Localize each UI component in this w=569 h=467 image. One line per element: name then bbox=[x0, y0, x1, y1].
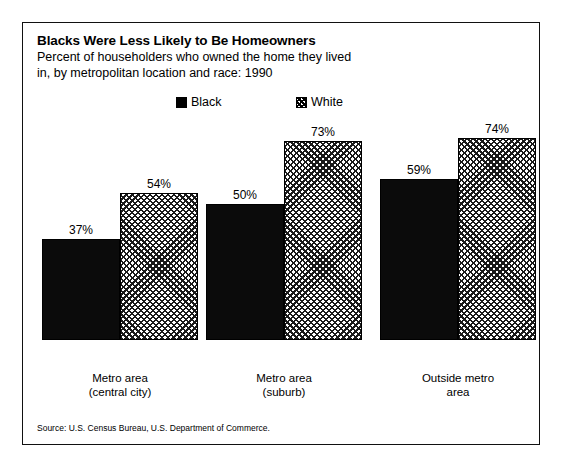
category-label-2: Metro area(suburb) bbox=[206, 371, 362, 399]
category-label-1-line-1: Metro area bbox=[42, 371, 198, 385]
category-label-1: Metro area(central city) bbox=[42, 371, 198, 399]
bar-white-3 bbox=[458, 138, 536, 340]
source-note: Source: U.S. Census Bureau, U.S. Departm… bbox=[37, 423, 270, 434]
chart-figure-frame: Blacks Were Less Likely to Be Homeowners… bbox=[22, 22, 540, 445]
bar-value-label-black-1: 37% bbox=[42, 224, 120, 237]
bar-black-2 bbox=[206, 204, 284, 341]
bar-value-label-white-1: 54% bbox=[120, 178, 198, 191]
bar-white-1 bbox=[120, 193, 198, 340]
bar-value-label-white-3: 74% bbox=[458, 123, 536, 136]
category-label-1-line-2: (central city) bbox=[42, 385, 198, 399]
category-label-2-line-2: (suburb) bbox=[206, 385, 362, 399]
bar-value-label-white-2: 73% bbox=[284, 126, 362, 139]
category-label-3-line-1: Outside metro bbox=[380, 371, 536, 385]
category-label-3-line-2: area bbox=[380, 385, 536, 399]
bar-black-1 bbox=[42, 239, 120, 340]
bar-value-label-black-3: 59% bbox=[380, 164, 458, 177]
category-label-3: Outside metroarea bbox=[380, 371, 536, 399]
bar-value-label-black-2: 50% bbox=[206, 189, 284, 202]
bar-white-2 bbox=[284, 141, 362, 340]
bar-black-3 bbox=[380, 179, 458, 340]
plot-area: 37%54%Metro area(central city)50%73%Metr… bbox=[23, 23, 539, 444]
category-label-2-line-1: Metro area bbox=[206, 371, 362, 385]
